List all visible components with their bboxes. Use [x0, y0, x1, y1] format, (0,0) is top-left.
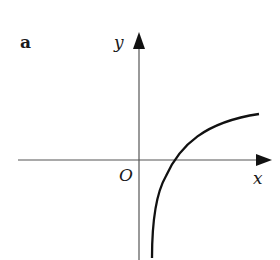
figure-canvas: a y O x: [0, 0, 280, 260]
x-axis-label: x: [253, 168, 263, 188]
function-curve: [152, 114, 259, 258]
origin-label: O: [119, 165, 133, 185]
panel-label: a: [20, 32, 31, 52]
y-axis-label: y: [114, 32, 124, 52]
graph-svg: [0, 0, 280, 260]
x-axis-arrow-icon: [256, 154, 272, 166]
y-axis-arrow-icon: [133, 32, 145, 49]
